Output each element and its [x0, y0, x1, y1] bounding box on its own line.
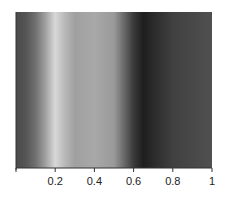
chart: 0.20.40.60.81: [0, 0, 227, 202]
plot-area: [16, 12, 212, 168]
x-tick-label: 0.4: [87, 175, 102, 187]
x-tick-label: 0.2: [48, 175, 63, 187]
x-tick-label: 0.8: [165, 175, 180, 187]
x-tick-label: 1: [209, 175, 215, 187]
x-tick-label: 0.6: [126, 175, 141, 187]
x-axis-ticks: 0.20.40.60.81: [16, 168, 215, 187]
